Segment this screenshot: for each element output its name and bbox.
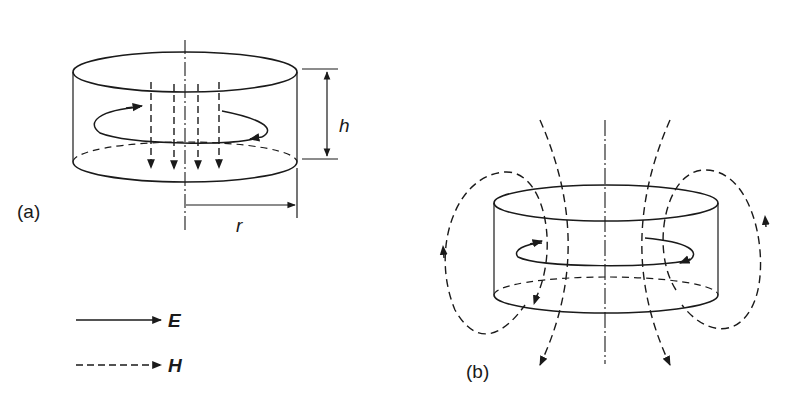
legend-e-label: E [168, 310, 182, 331]
panel-b-cylinder [494, 120, 718, 364]
legend-h-label: H [168, 355, 183, 376]
radius-label: r [236, 215, 243, 236]
e-field-loop [94, 106, 267, 143]
diagram-canvas: h r (a) E H (b) [0, 0, 789, 414]
height-dimension [302, 69, 338, 159]
height-label: h [339, 115, 350, 136]
panel-a-label: (a) [17, 201, 40, 222]
radius-dimension [186, 168, 297, 218]
panel-b-label: (b) [466, 361, 489, 382]
legend [76, 320, 161, 365]
